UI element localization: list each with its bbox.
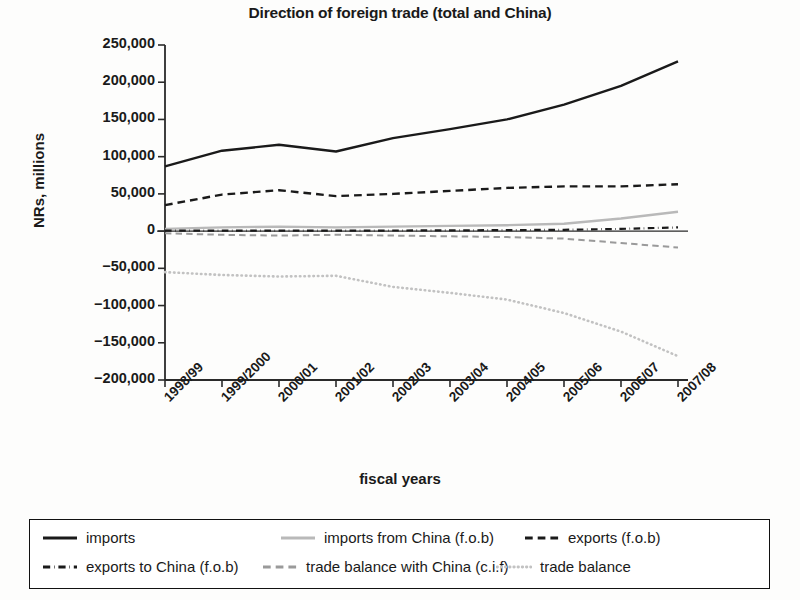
y-tick-label: 100,000 bbox=[63, 147, 155, 163]
series-line-4 bbox=[165, 233, 678, 247]
series-line-1 bbox=[165, 212, 678, 229]
solid-black-line-icon bbox=[42, 532, 78, 544]
y-tick-label: 250,000 bbox=[63, 35, 155, 51]
chart-legend: importsimports from China (f.o.b)exports… bbox=[29, 519, 770, 589]
plot-area: NRs, millions 250,000200,000150,000100,0… bbox=[0, 0, 800, 600]
series-line-5 bbox=[165, 272, 678, 356]
legend-item[interactable]: imports bbox=[42, 529, 135, 546]
legend-label: exports to China (f.o.b) bbox=[86, 558, 239, 575]
y-tick-label: 0 bbox=[63, 221, 155, 237]
series-line-0 bbox=[165, 61, 678, 166]
y-tick-label: −150,000 bbox=[63, 333, 155, 349]
data-series-group bbox=[165, 61, 678, 356]
legend-item[interactable]: imports from China (f.o.b) bbox=[280, 529, 494, 546]
legend-item[interactable]: exports (f.o.b) bbox=[524, 529, 661, 546]
y-tick-label: −50,000 bbox=[63, 258, 155, 274]
legend-item[interactable]: exports to China (f.o.b) bbox=[42, 558, 239, 575]
y-tick-label: 150,000 bbox=[63, 109, 155, 125]
y-tick-label: −200,000 bbox=[63, 370, 155, 386]
x-axis-title: fiscal years bbox=[0, 470, 800, 487]
legend-item[interactable]: trade balance bbox=[496, 558, 631, 575]
dotted-gray-line-icon bbox=[496, 561, 532, 573]
legend-label: trade balance with China (c.i.f) bbox=[306, 558, 509, 575]
solid-gray-line-icon bbox=[280, 532, 316, 544]
y-tick-label: −100,000 bbox=[63, 296, 155, 312]
series-line-2 bbox=[165, 184, 678, 205]
dashdot-black-line-icon bbox=[42, 561, 78, 573]
dashed-black-line-icon bbox=[524, 532, 560, 544]
legend-label: imports bbox=[86, 529, 135, 546]
dashed-gray-line-icon bbox=[262, 561, 298, 573]
y-tick-label: 200,000 bbox=[63, 72, 155, 88]
legend-item[interactable]: trade balance with China (c.i.f) bbox=[262, 558, 509, 575]
legend-label: imports from China (f.o.b) bbox=[324, 529, 494, 546]
legend-label: exports (f.o.b) bbox=[568, 529, 661, 546]
legend-label: trade balance bbox=[540, 558, 631, 575]
y-tick-label: 50,000 bbox=[63, 184, 155, 200]
axes bbox=[157, 45, 688, 387]
